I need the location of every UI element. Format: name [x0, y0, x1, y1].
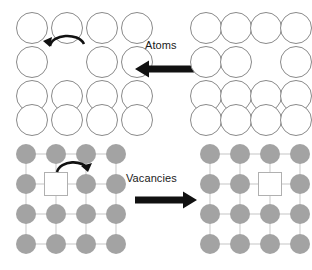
atoms-right-lattice	[190, 6, 310, 132]
lattice-atom	[46, 204, 66, 224]
lattice-atom	[106, 204, 126, 224]
lattice-atom	[260, 204, 280, 224]
lattice-atom	[260, 234, 280, 254]
atoms-label: Atoms	[145, 39, 177, 51]
lattice-atom	[106, 234, 126, 254]
lattice-atom	[230, 234, 250, 254]
atom-circle	[281, 13, 312, 44]
lattice-atom	[200, 204, 220, 224]
lattice-lines	[26, 154, 116, 244]
atom-circle	[52, 105, 83, 136]
atom-circle	[251, 105, 282, 136]
atom-circle	[87, 105, 118, 136]
lattice-atom	[200, 174, 220, 194]
atom-circle	[281, 47, 312, 78]
vacancies-flow-arrow	[133, 191, 197, 209]
lattice-atom	[76, 144, 96, 164]
lattice-atom	[260, 144, 280, 164]
vacancies-label: Vacancies	[126, 172, 177, 184]
lattice-atom	[76, 174, 96, 194]
atom-circle	[221, 105, 252, 136]
atom-circle	[17, 105, 48, 136]
lattice-atom	[200, 144, 220, 164]
vacancy-square	[45, 173, 68, 196]
vacancies-right-panel	[196, 140, 312, 264]
atom-circle	[251, 13, 282, 44]
lattice-atom	[230, 144, 250, 164]
lattice-atom	[290, 204, 310, 224]
lattice-atom	[46, 234, 66, 254]
lattice-atom	[16, 204, 36, 224]
atom-circle	[191, 47, 222, 78]
lattice-atom	[46, 144, 66, 164]
lattice-atom	[76, 234, 96, 254]
diffusion-diagram: Atoms	[0, 0, 312, 270]
vacancies-right-lattice	[196, 140, 312, 264]
lattice-atom	[230, 204, 250, 224]
lattice-atom	[290, 174, 310, 194]
lattice-atom	[200, 234, 220, 254]
atom-circle	[17, 47, 48, 78]
atom-circle	[87, 47, 118, 78]
atoms-flow-arrow	[135, 60, 197, 78]
vacancy-square	[259, 173, 282, 196]
lattice-atom	[230, 174, 250, 194]
vacancies-left-panel	[8, 140, 136, 264]
vacancies-left-lattice	[8, 140, 136, 264]
atom-circle	[191, 105, 222, 136]
lattice-atom	[76, 204, 96, 224]
atom-circle	[281, 105, 312, 136]
atom-circle	[17, 13, 48, 44]
atom-circle	[122, 105, 153, 136]
lattice-atom	[106, 144, 126, 164]
atoms-right-panel	[190, 6, 310, 132]
lattice-atom	[290, 144, 310, 164]
atom-circle	[221, 47, 252, 78]
lattice-atom	[16, 234, 36, 254]
atom-circle	[221, 13, 252, 44]
lattice-lines	[210, 154, 300, 244]
lattice-atom	[106, 174, 126, 194]
lattice-atom	[16, 174, 36, 194]
atom-circle	[191, 13, 222, 44]
lattice-atom	[290, 234, 310, 254]
lattice-atom	[16, 144, 36, 164]
atom-circle	[87, 13, 118, 44]
